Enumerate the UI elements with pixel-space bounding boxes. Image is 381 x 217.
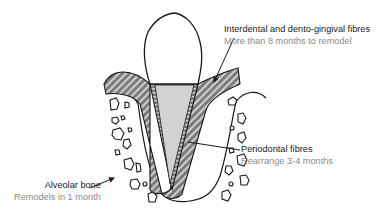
label-periodontal-title: Periodontal fibres [241,144,333,156]
label-periodontal-subtitle: Rearrange 3-4 months [241,156,333,168]
label-periodontal-fibres: Periodontal fibres Rearrange 3-4 months [241,144,333,167]
label-gingival-fibres: Interdental and dento-gingival fibres Mo… [224,24,370,47]
tooth-crown [144,13,201,84]
label-alveolar-title: Alveolar bone [14,180,101,192]
label-gingival-title: Interdental and dento-gingival fibres [224,24,370,36]
label-gingival-subtitle: More than 8 months to remodel [224,36,370,48]
label-alveolar-subtitle: Remodels in 1 month [14,192,101,204]
label-alveolar-bone: Alveolar bone Remodels in 1 month [14,180,101,203]
